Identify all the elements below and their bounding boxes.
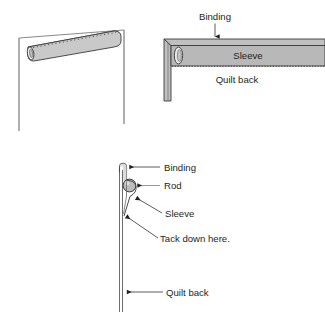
panel-front-detail-view: Binding Sleeve Quilt back	[164, 11, 325, 101]
leader-sleeve-cross	[137, 198, 163, 213]
diagram-canvas: Binding Sleeve Quilt back	[0, 0, 325, 323]
label-quilt-back-front: Quilt back	[216, 74, 259, 85]
leader-tack-cross	[127, 217, 159, 239]
panel-cross-section-view: Binding Rod Sleeve Tack down here. Quilt…	[120, 162, 230, 313]
rod-highlight	[125, 181, 129, 185]
label-binding-front: Binding	[199, 11, 231, 22]
binding-cap-fill	[120, 163, 127, 181]
label-binding-cross: Binding	[164, 162, 196, 173]
label-tack-cross: Tack down here.	[160, 233, 230, 244]
panel-perspective-view	[19, 30, 124, 131]
sleeve-tube-body	[28, 31, 121, 61]
rod-end-opening-inner	[177, 50, 181, 62]
sleeve-tube-3d	[26, 31, 121, 61]
label-sleeve-front: Sleeve	[233, 50, 262, 61]
binding-strip-top	[164, 39, 325, 46]
quilt-sleeve-diagram: Binding Sleeve Quilt back	[0, 0, 325, 323]
label-rod-cross: Rod	[164, 180, 182, 191]
label-sleeve-cross: Sleeve	[165, 208, 194, 219]
label-quilt-back-cross: Quilt back	[166, 287, 209, 298]
binding-strip-left	[164, 39, 171, 101]
